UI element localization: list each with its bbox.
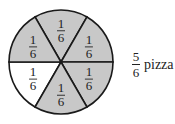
- svg-text:1: 1: [86, 32, 93, 47]
- slice-label-lower-right: 16: [85, 64, 93, 93]
- slice-label-upper-right: 16: [85, 32, 93, 61]
- slice-label-upper-left: 16: [29, 32, 37, 61]
- pizza-fraction-caption: 5 6 pizza: [132, 50, 174, 79]
- slice-label-bottom: 16: [57, 80, 65, 109]
- caption-numerator: 5: [133, 50, 140, 63]
- caption-fraction: 5 6: [132, 50, 140, 79]
- slice-label-top: 16: [57, 16, 65, 45]
- svg-text:1: 1: [30, 32, 37, 47]
- svg-text:6: 6: [58, 30, 65, 45]
- slice-label-lower-left: 16: [29, 64, 37, 93]
- svg-text:1: 1: [58, 16, 65, 31]
- caption-text: pizza: [144, 57, 174, 73]
- svg-text:1: 1: [58, 80, 65, 95]
- svg-text:6: 6: [86, 46, 93, 61]
- svg-text:6: 6: [30, 46, 37, 61]
- fraction-circle: 161616161616: [0, 0, 124, 124]
- svg-text:6: 6: [30, 78, 37, 93]
- svg-text:1: 1: [30, 64, 37, 79]
- caption-denominator: 6: [133, 66, 140, 79]
- svg-text:1: 1: [86, 64, 93, 79]
- svg-text:6: 6: [58, 94, 65, 109]
- svg-text:6: 6: [86, 78, 93, 93]
